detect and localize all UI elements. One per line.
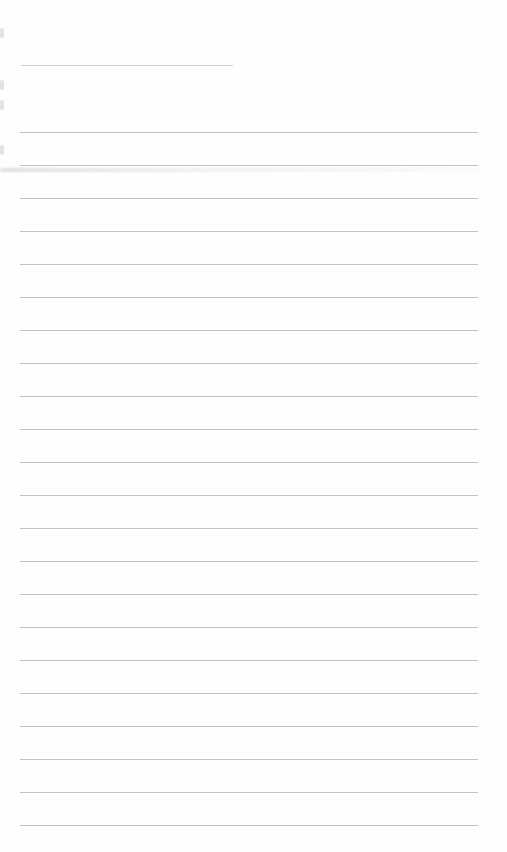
ruled-line	[20, 792, 478, 793]
ruled-line	[20, 198, 478, 199]
ruled-line	[20, 627, 478, 628]
ruled-line	[20, 396, 478, 397]
ruled-line	[20, 231, 478, 232]
scan-smudge	[0, 168, 478, 172]
ruled-line	[20, 429, 478, 430]
ruled-line	[20, 132, 478, 133]
ruled-line	[20, 726, 478, 727]
ruled-line	[20, 165, 478, 166]
ruled-line	[20, 330, 478, 331]
ruled-line	[20, 561, 478, 562]
ruled-line	[20, 363, 478, 364]
scan-edge-mark	[0, 145, 4, 155]
scan-edge-mark	[0, 100, 4, 110]
ruled-line	[20, 297, 478, 298]
lined-paper-page	[0, 0, 507, 852]
ruled-line	[20, 495, 478, 496]
ruled-line	[20, 759, 478, 760]
ruled-line	[20, 594, 478, 595]
ruled-line	[20, 693, 478, 694]
ruled-line	[20, 462, 478, 463]
ruled-line	[20, 264, 478, 265]
scan-edge-mark	[0, 80, 4, 90]
ruled-line	[20, 825, 478, 826]
scan-edge-mark	[0, 28, 4, 38]
ruled-line	[20, 528, 478, 529]
ruled-line	[20, 660, 478, 661]
header-rule	[21, 65, 233, 66]
